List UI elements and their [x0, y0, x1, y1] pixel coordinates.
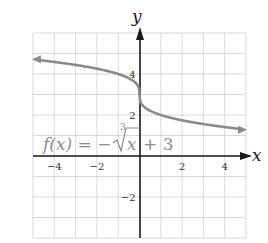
- function-label-suffix: + 3: [143, 134, 173, 154]
- svg-text:f(x) = −: f(x) = −: [41, 134, 111, 154]
- y-axis-arrow-icon: [136, 27, 144, 40]
- y-tick-label: 2: [129, 110, 135, 121]
- radicand: x: [127, 134, 137, 154]
- x-axis-label: x: [252, 145, 262, 165]
- y-tick-label: −2: [121, 192, 136, 203]
- axes: [33, 27, 252, 238]
- x-tick-label: −4: [47, 161, 62, 172]
- function-label-prefix: f(x) = −: [41, 134, 111, 154]
- y-axis-label: y: [131, 6, 142, 26]
- function-label: f(x) = − 3 x + 3: [41, 122, 173, 154]
- x-tick-label: 2: [179, 161, 185, 172]
- x-tick-label: 4: [222, 161, 228, 172]
- function-graph: −4−22442−2 x y f(x) = − 3 x + 3: [0, 0, 268, 243]
- x-tick-label: −2: [90, 161, 105, 172]
